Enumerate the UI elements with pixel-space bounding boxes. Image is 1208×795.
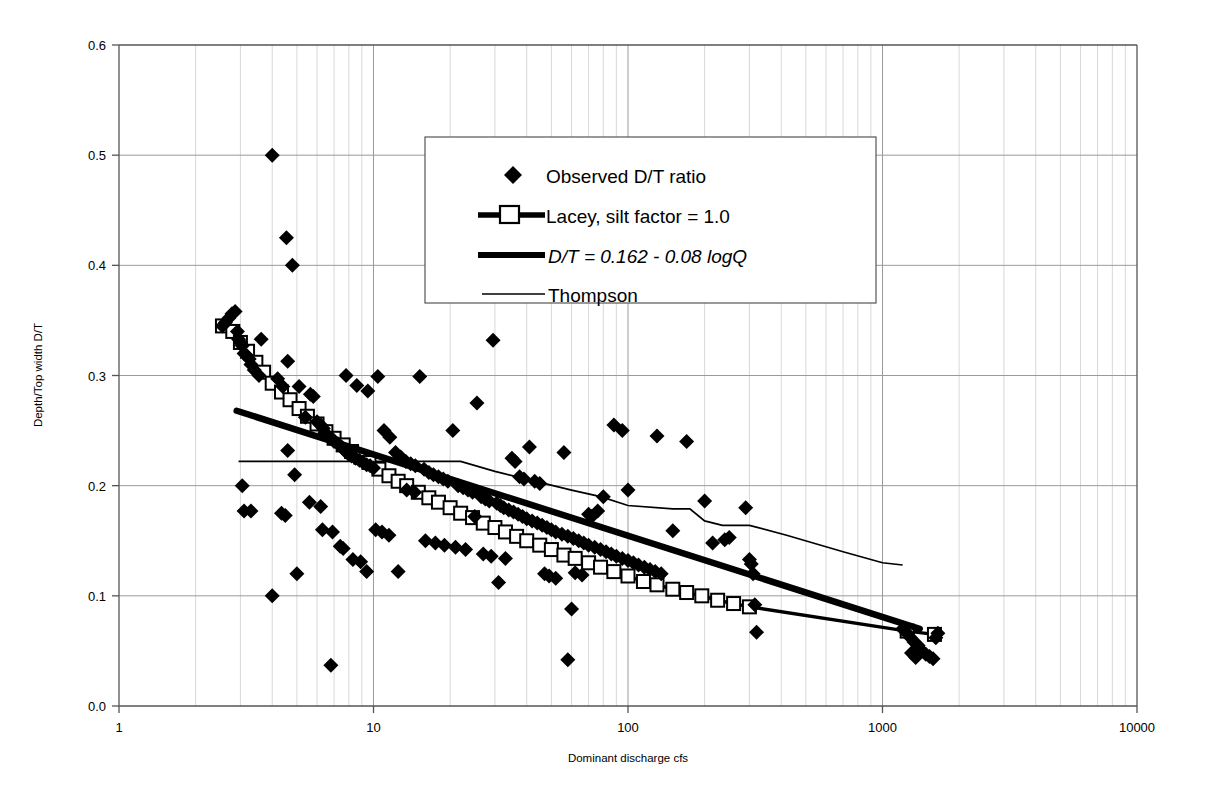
open-square-icon — [500, 206, 519, 223]
y-tick-label: 0.5 — [88, 148, 106, 163]
legend-label-lacey: Lacey, silt factor = 1.0 — [546, 206, 730, 227]
lacey-marker — [637, 575, 650, 588]
x-tick-label: 10000 — [1119, 720, 1155, 735]
x-tick-label: 1000 — [868, 720, 897, 735]
lacey-marker — [695, 589, 708, 602]
lacey-marker — [666, 583, 679, 596]
lacey-marker — [711, 594, 724, 607]
x-tick-label: 10 — [366, 720, 380, 735]
y-tick-label: 0.2 — [88, 479, 106, 494]
y-tick-label: 0.1 — [88, 589, 106, 604]
y-axis-title: Depth/Top width D/T — [32, 323, 44, 427]
x-tick-label: 100 — [617, 720, 639, 735]
lacey-marker — [594, 561, 607, 574]
lacey-marker — [569, 552, 582, 565]
lacey-marker — [680, 586, 693, 599]
lacey-marker — [545, 543, 558, 556]
chart-background — [0, 0, 1208, 795]
y-tick-label: 0.0 — [88, 699, 106, 714]
lacey-marker — [607, 565, 620, 578]
y-tick-label: 0.4 — [88, 258, 106, 273]
lacey-marker — [727, 597, 740, 610]
x-axis-title: Dominant discharge cfs — [568, 752, 688, 764]
legend-label-observed: Observed D/T ratio — [546, 166, 706, 187]
legend-entry-lacey: Lacey, silt factor = 1.0 — [478, 206, 730, 227]
y-tick-label: 0.3 — [88, 369, 106, 384]
lacey-marker — [622, 570, 635, 583]
legend-label-regression: D/T = 0.162 - 0.08 logQ — [548, 246, 747, 267]
dt-ratio-vs-discharge-chart: 110100100010000 0.00.10.20.30.40.50.6 Do… — [0, 0, 1208, 795]
lacey-marker — [520, 534, 533, 547]
x-tick-label: 1 — [115, 720, 122, 735]
y-tick-label: 0.6 — [88, 38, 106, 53]
chart-page: 110100100010000 0.00.10.20.30.40.50.6 Do… — [0, 0, 1208, 795]
chart-legend: Observed D/T ratio Lacey, silt factor = … — [425, 137, 876, 306]
legend-label-thompson: Thompson — [548, 285, 638, 306]
